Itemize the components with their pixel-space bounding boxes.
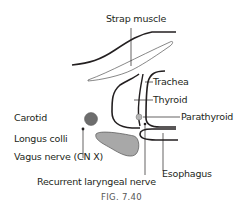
label-esophagus: Esophagus — [162, 169, 212, 179]
label-recurrent-laryngeal-nerve: Recurrent laryngeal nerve — [37, 177, 156, 187]
strap-muscle-outline — [72, 32, 176, 65]
label-carotid: Carotid — [14, 113, 47, 123]
parathyroid-shape — [136, 114, 142, 120]
figure-caption: FIG. 7.40 — [101, 193, 142, 202]
label-thyroid: Thyroid — [153, 95, 187, 105]
esophagus-outline — [140, 129, 178, 140]
label-vagus-nerve: Vagus nerve (CN X) — [14, 152, 103, 162]
label-parathyroid: Parathyroid — [181, 112, 233, 122]
vagus-nerve-dot — [82, 128, 85, 131]
label-strap-muscle: Strap muscle — [106, 14, 166, 24]
recurrent-laryngeal-nerve-dot — [144, 123, 147, 126]
label-longus-colli: Longus colli — [14, 134, 68, 144]
label-trachea: Trachea — [153, 77, 189, 87]
carotid-shape — [85, 113, 98, 126]
trachea-outline — [112, 74, 140, 128]
